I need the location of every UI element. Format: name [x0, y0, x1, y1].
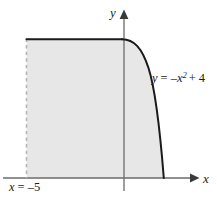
y-axis-arrowhead [120, 10, 129, 20]
y-axis-label: y [108, 5, 116, 20]
x-axis-label: x [202, 171, 209, 186]
curve-equation-label: y=–x2+ 4 [150, 70, 206, 86]
shaded-region [27, 40, 164, 179]
graph-canvas: y x y=–x2+ 4 x= –5 [0, 0, 217, 208]
figure-container: y x y=–x2+ 4 x= –5 y = –x² + 4 x = –5 x … [0, 0, 217, 208]
x-axis-arrowhead [190, 174, 200, 183]
boundary-label: x= –5 [8, 180, 40, 194]
